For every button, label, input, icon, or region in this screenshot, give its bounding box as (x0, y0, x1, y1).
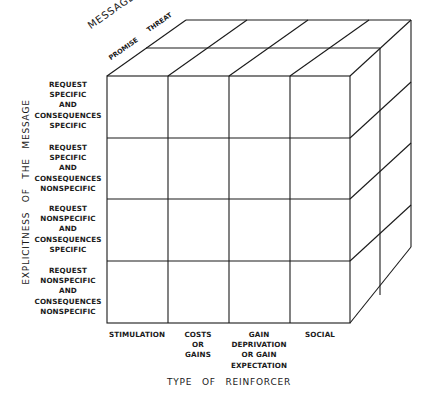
column-label-social: SOCIAL (285, 330, 355, 340)
row-label-4: REQUESTNONSPECIFICANDCONSEQUENCESNONSPEC… (30, 266, 106, 317)
column-label-stimulation: STIMULATION (102, 330, 172, 340)
row-label-1: REQUESTSPECIFICANDCONSEQUENCESSPECIFIC (30, 80, 106, 131)
row-label-3: REQUESTNONSPECIFICANDCONSEQUENCESSPECIFI… (30, 204, 106, 255)
row-label-2: REQUESTSPECIFICANDCONSEQUENCESNONSPECIFI… (30, 143, 106, 194)
column-label-gain-deprivation: GAINDEPRIVATIONOR GAINEXPECTATION (224, 330, 294, 371)
column-label-costs-or-gains: COSTSORGAINS (163, 330, 233, 361)
axis-label-type-of-reinforcer: TYPE OF REINFORCER (167, 377, 291, 387)
right-face (350, 20, 411, 323)
